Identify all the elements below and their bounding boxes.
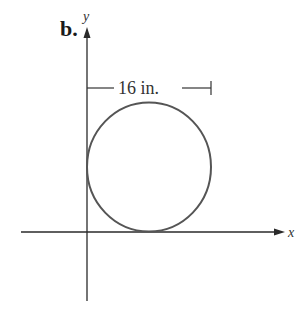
circle — [87, 103, 211, 232]
x-axis-label: x — [287, 225, 295, 240]
y-axis-arrow-icon — [84, 27, 91, 38]
y-axis-label: y — [81, 9, 90, 24]
diagram-canvas: x y b. 16 in. — [0, 0, 307, 321]
dimension-label: 16 in. — [118, 78, 159, 98]
part-label: b. — [60, 16, 78, 41]
x-axis-arrow-icon — [274, 229, 285, 236]
